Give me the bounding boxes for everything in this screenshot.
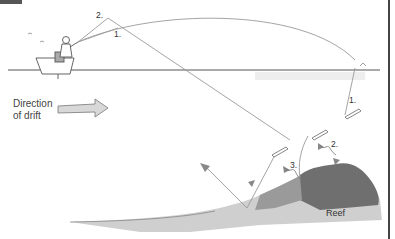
step-2-label-upper: 2.: [96, 10, 103, 20]
lure-splash: [360, 63, 366, 66]
step-1-label-upper: 1.: [114, 29, 121, 39]
lures: [272, 109, 361, 157]
birds: [28, 33, 44, 42]
step-2-label-reef: 2.: [331, 139, 338, 149]
drift-label-line2: of drift: [13, 110, 41, 121]
reef-label: Reef: [326, 208, 345, 218]
reef: [70, 163, 382, 232]
drift-label-line1: Direction: [13, 98, 52, 109]
drift-arrow: [58, 99, 108, 117]
step-3-label-reef: 3.: [290, 160, 297, 170]
fishing-drift-diagram: 2. 1. 1. 2. 3. Direction of drift Reef: [0, 0, 395, 239]
boat-with-angler: [36, 37, 78, 80]
diagram-graphics: [0, 0, 395, 239]
step-1-label-right: 1.: [349, 95, 356, 105]
